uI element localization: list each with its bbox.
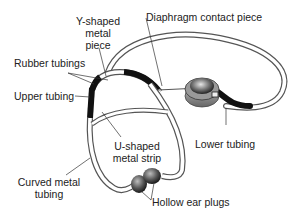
label-rubber-tubings: Rubber tubings: [14, 57, 85, 69]
label-line: Curved metal: [14, 176, 84, 188]
label-line: piece: [68, 39, 128, 51]
label-line: Y-shaped: [68, 15, 128, 27]
label-hollow-ear-plugs: Hollow ear plugs: [152, 196, 230, 208]
label-line: U-shaped: [104, 140, 170, 152]
label-line: metal: [68, 27, 128, 39]
upper-tubing: [90, 88, 92, 118]
label-curved-metal-tubing: Curved metal tubing: [14, 176, 84, 200]
label-upper-tubing: Upper tubing: [14, 90, 74, 102]
u-shaped-metal-strip: [92, 110, 168, 124]
ear-plug-right: [143, 168, 161, 184]
diaphragm-chestpiece: [185, 78, 219, 107]
label-lower-tubing: Lower tubing: [195, 138, 255, 150]
label-u-shaped-metal-strip: U-shaped metal strip: [104, 140, 170, 164]
label-y-shaped-metal-piece: Y-shaped metal piece: [68, 15, 128, 51]
label-line: metal strip: [104, 152, 170, 164]
stethoscope-diagram: Y-shaped metal piece Diaphragm contact p…: [0, 0, 292, 221]
label-line: tubing: [14, 188, 84, 200]
lower-tubing: [218, 92, 250, 106]
label-diaphragm-contact-piece: Diaphragm contact piece: [146, 11, 262, 23]
